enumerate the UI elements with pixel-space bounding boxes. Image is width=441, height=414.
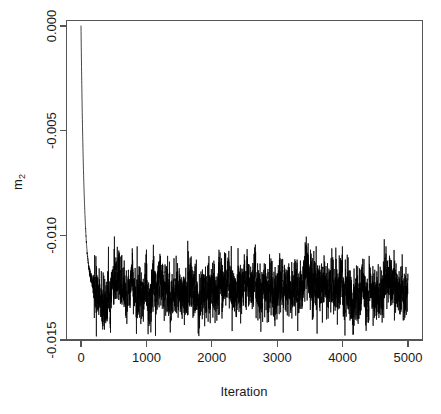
x-axis-tick-label: 1000 [132,350,161,365]
y-axis-tick-label: 0.000 [44,10,59,43]
x-axis-title: Iteration [221,384,268,399]
trace-plot-figure: 0.000-0.005-0.010-0.015 0100020003000400… [0,0,441,414]
x-axis-tick-label: 4000 [328,350,357,365]
x-axis-tick-label: 0 [77,350,84,365]
chart-canvas: 0.000-0.005-0.010-0.015 0100020003000400… [0,0,441,414]
y-axis-tick-label: -0.015 [44,322,59,359]
y-axis-title-subscript: 2 [17,174,27,179]
x-axis-tick-label: 5000 [394,350,423,365]
y-axis-tick-label: -0.010 [44,217,59,254]
y-axis-tick-label: -0.005 [44,112,59,149]
x-axis-tick-label: 3000 [263,350,292,365]
x-axis-tick-label: 2000 [197,350,226,365]
y-axis-title-base: m [10,179,25,190]
